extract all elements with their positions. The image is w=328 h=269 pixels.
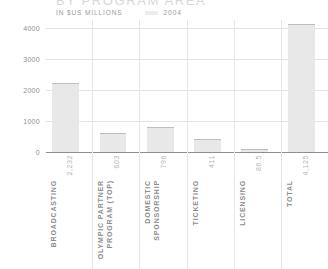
bar-column[interactable]: 603OLYMPIC PARTNERPROGRAM (TOP) <box>93 20 140 269</box>
chart-subtitle-row: IN $US MILLIONS 2004 <box>56 9 182 16</box>
category-label: DOMESTICSPONSORSHIP <box>140 180 186 268</box>
category-label-line: TOTAL <box>286 180 293 207</box>
bar-value-label: 796 <box>160 155 167 168</box>
chart-units-label: IN $US MILLIONS <box>56 9 123 16</box>
y-axis: 40003000200010000 <box>0 28 40 152</box>
category-label: BROADCASTING <box>46 180 92 268</box>
bar-value-label: 86.5 <box>254 155 261 171</box>
category-label: TOTAL <box>282 180 328 268</box>
bar-value-label: 411 <box>207 155 214 168</box>
bar-value-label: 603 <box>113 155 120 168</box>
bar-column[interactable]: 796DOMESTICSPONSORSHIP <box>140 20 187 269</box>
bar-value-label: 2,232 <box>66 155 73 176</box>
bar[interactable] <box>147 127 174 152</box>
bar[interactable] <box>288 24 315 152</box>
y-tick-label: 4000 <box>23 25 40 32</box>
bar[interactable] <box>241 149 268 152</box>
category-label-line: SPONSORSHIP <box>153 180 160 241</box>
bar[interactable] <box>52 83 79 152</box>
category-label-line: PROGRAM (TOP) <box>106 180 113 248</box>
y-tick-label: 0 <box>36 149 40 156</box>
category-label-line: BROADCASTING <box>50 180 57 247</box>
category-label: TICKETING <box>188 180 234 268</box>
category-label: LICENSING <box>235 180 281 268</box>
bar-column[interactable]: 86.5LICENSING <box>235 20 282 269</box>
bar[interactable] <box>194 139 221 152</box>
y-tick-label: 3000 <box>23 56 40 63</box>
category-label-line: TICKETING <box>192 180 199 225</box>
category-label-line: LICENSING <box>239 180 246 226</box>
bar[interactable] <box>100 133 127 152</box>
bar-column[interactable]: 2,232BROADCASTING <box>46 20 93 269</box>
bar-columns: 2,232BROADCASTING603OLYMPIC PARTNERPROGR… <box>46 20 328 269</box>
category-label-line: OLYMPIC PARTNER <box>97 180 104 259</box>
legend-swatch <box>145 11 158 15</box>
category-label: OLYMPIC PARTNERPROGRAM (TOP) <box>93 180 139 268</box>
bar-column[interactable]: 411TICKETING <box>188 20 235 269</box>
category-label-line: DOMESTIC <box>144 180 151 224</box>
chart-title: BY PROGRAM AREA <box>56 0 206 8</box>
bar-column[interactable]: 4,125TOTAL <box>282 20 328 269</box>
bar-value-label: 4,125 <box>301 155 308 176</box>
y-tick-label: 1000 <box>23 118 40 125</box>
legend-year-label: 2004 <box>164 9 182 16</box>
y-tick-label: 2000 <box>23 87 40 94</box>
